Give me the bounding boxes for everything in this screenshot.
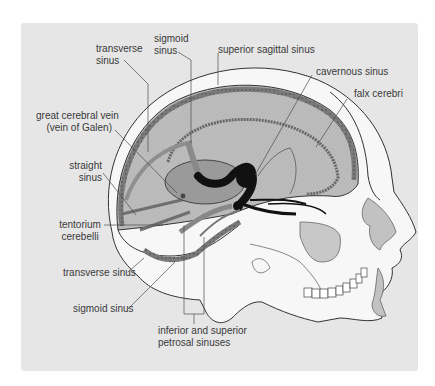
label-cavernous-sinus: cavernous sinus <box>316 66 388 78</box>
label-tentorium-cerebelli: tentorium cerebelli <box>56 219 104 242</box>
label-transverse-sinus-lower: transverse sinus <box>63 267 136 279</box>
label-superior-sagittal-sinus: superior sagittal sinus <box>218 44 315 56</box>
label-straight-sinus: straight sinus <box>60 160 102 183</box>
label-great-cerebral-vein: great cerebral vein (vein of Galen) <box>36 110 112 133</box>
label-petrosal-sinuses: inferior and superior petrosal sinuses <box>158 325 247 348</box>
label-sigmoid-sinus-upper: sigmoid sinus <box>154 33 188 56</box>
label-falx-cerebri: falx cerebri <box>354 88 403 100</box>
label-sigmoid-sinus-lower: sigmoid sinus <box>73 303 134 315</box>
label-transverse-sinus-upper: transverse sinus <box>96 43 143 66</box>
